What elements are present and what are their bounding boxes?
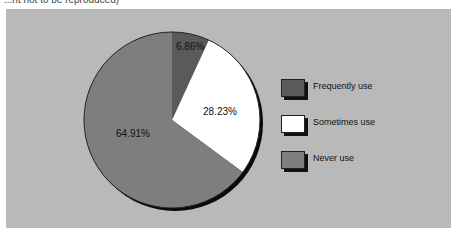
slice-label-sometimes: 28.23% [203, 106, 237, 117]
legend-swatch [281, 151, 305, 169]
slice-label-frequently: 6.86% [176, 41, 204, 52]
legend-label: Frequently use [313, 81, 373, 91]
legend-label: Sometimes use [313, 117, 375, 127]
legend-swatch [281, 115, 305, 133]
pie-chart [0, 0, 457, 234]
pie-slices [84, 32, 260, 208]
legend-swatch [281, 79, 305, 97]
legend-label: Never use [313, 153, 354, 163]
slice-label-never: 64.91% [116, 128, 150, 139]
